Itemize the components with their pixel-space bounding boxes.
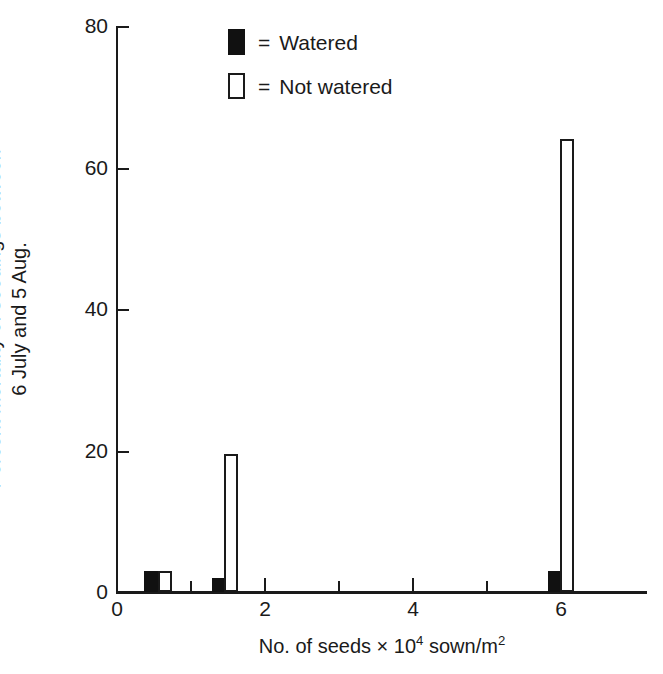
plot-area xyxy=(117,26,647,592)
x-axis-title-prefix: No. of seeds × 10 xyxy=(259,635,416,657)
legend-swatch-filled-icon xyxy=(228,29,245,55)
y-tick-label-40: 40 xyxy=(0,298,108,319)
y-tick-label-60: 60 xyxy=(0,157,108,178)
legend-equals-sign: = xyxy=(258,32,270,53)
bar-watered-g1 xyxy=(144,571,159,592)
x-tick-label-2: 2 xyxy=(245,597,285,621)
x-tick-label-6: 6 xyxy=(541,597,581,621)
x-axis-title-middle: sown/m xyxy=(423,635,497,657)
y-axis-title-line-2: 6 July and 5 Aug. xyxy=(6,149,32,488)
bar-notwatered-g2 xyxy=(224,454,238,592)
y-tick-label-0: 0 xyxy=(0,581,108,602)
bar-notwatered-g1 xyxy=(158,571,172,592)
bar-watered-g3 xyxy=(548,571,561,592)
legend-item-watered: = Watered xyxy=(228,20,488,64)
bar-notwatered-g3 xyxy=(560,139,573,592)
x-tick-label-4: 4 xyxy=(393,597,433,621)
y-tick-label-20: 20 xyxy=(0,440,108,461)
y-tick-label-80: 80 xyxy=(0,15,108,36)
x-axis-title: No. of seeds × 104 sown/m2 xyxy=(117,634,647,658)
chart-figure: 020406080 0246 = Watered = Not watered P… xyxy=(0,0,663,674)
legend-label-watered: Watered xyxy=(279,32,358,53)
legend-item-not-watered: = Not watered xyxy=(228,64,488,108)
x-tick-label-0: 0 xyxy=(97,597,137,621)
chart-legend: = Watered = Not watered xyxy=(228,20,488,108)
bar-watered-g2 xyxy=(212,578,225,592)
x-axis-title-exponent-2: 2 xyxy=(498,633,505,648)
y-axis-title-line-1: Percent mortality of seedings between xyxy=(0,149,6,488)
y-axis-title: Percent mortality of seedings between 6 … xyxy=(0,0,60,674)
legend-label-not-watered: Not watered xyxy=(279,76,392,97)
legend-swatch-open-icon xyxy=(228,73,245,99)
y-tick-0 xyxy=(118,592,129,594)
legend-equals-sign: = xyxy=(258,76,270,97)
